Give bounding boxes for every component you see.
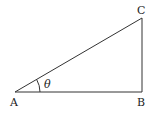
- edge-ca: [15, 18, 142, 92]
- triangle-diagram: θ A B C: [0, 0, 151, 115]
- angle-label: θ: [44, 78, 51, 91]
- vertex-label-b: B: [137, 96, 145, 109]
- angle-arc: [37, 79, 40, 92]
- vertex-label-c: C: [137, 4, 145, 17]
- vertex-label-a: A: [9, 96, 19, 109]
